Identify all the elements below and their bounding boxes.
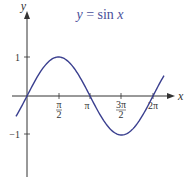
- y-axis-label: y: [20, 0, 27, 13]
- svg-text:2: 2: [119, 109, 124, 120]
- svg-text:1: 1: [15, 52, 20, 63]
- x-axis-label: x: [177, 89, 184, 103]
- svg-text:−1: −1: [9, 129, 20, 140]
- y-tick-1: 1: [15, 52, 30, 63]
- x-tick-pi-over-2: π 2: [56, 93, 62, 120]
- svg-text:2: 2: [57, 109, 62, 120]
- x-tick-3pi-over-2: 3π 2: [116, 93, 126, 120]
- sine-chart: y = sin x y x 1 −1 π 2 π 3π 2 2π: [0, 0, 185, 190]
- x-axis-arrow-icon: [167, 93, 175, 99]
- svg-text:π: π: [84, 100, 89, 111]
- chart-title: y = sin x: [74, 7, 124, 22]
